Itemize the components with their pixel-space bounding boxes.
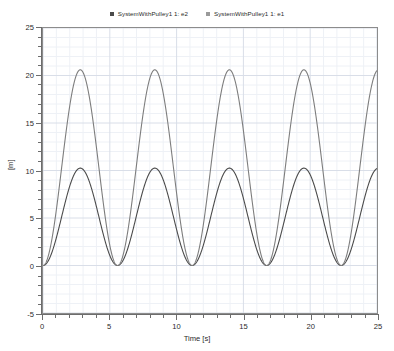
x-tick-major: [311, 315, 312, 320]
x-tick-minor: [123, 315, 124, 318]
series-line-1: [43, 168, 377, 265]
x-tick-minor: [96, 315, 97, 318]
y-tick-minor: [38, 104, 41, 105]
x-tick-major: [378, 315, 379, 320]
x-tick-label: 0: [27, 322, 57, 331]
y-tick-label: 0: [6, 262, 34, 271]
x-tick-minor: [270, 315, 271, 318]
x-tick-minor: [69, 315, 70, 318]
y-tick-major: [36, 218, 41, 219]
y-tick-major: [36, 314, 41, 315]
series-curves: [43, 28, 377, 313]
y-tick-minor: [38, 46, 41, 47]
x-tick-major: [176, 315, 177, 320]
y-tick-major: [36, 27, 41, 28]
x-tick-minor: [284, 315, 285, 318]
x-tick-minor: [338, 315, 339, 318]
y-tick-minor: [38, 180, 41, 181]
x-tick-minor: [136, 315, 137, 318]
x-tick-minor: [203, 315, 204, 318]
y-tick-minor: [38, 56, 41, 57]
y-tick-minor: [38, 151, 41, 152]
x-tick-label: 10: [161, 322, 191, 331]
y-tick-label: 15: [6, 118, 34, 127]
y-tick-minor: [38, 228, 41, 229]
x-tick-label: 5: [94, 322, 124, 331]
x-tick-minor: [150, 315, 151, 318]
y-tick-minor: [38, 37, 41, 38]
x-tick-label: 15: [229, 322, 259, 331]
x-tick-minor: [230, 315, 231, 318]
square-marker-icon: [206, 12, 210, 16]
x-tick-minor: [82, 315, 83, 318]
y-tick-minor: [38, 285, 41, 286]
y-tick-major: [36, 75, 41, 76]
y-tick-minor: [38, 142, 41, 143]
y-tick-major: [36, 171, 41, 172]
x-tick-minor: [297, 315, 298, 318]
x-axis-title: Time [s]: [0, 334, 394, 343]
x-tick-minor: [217, 315, 218, 318]
y-axis-line: [41, 27, 42, 315]
y-tick-minor: [38, 94, 41, 95]
y-tick-minor: [38, 247, 41, 248]
x-axis-line: [42, 314, 379, 315]
y-tick-minor: [38, 132, 41, 133]
x-tick-label: 25: [363, 322, 393, 331]
y-tick-major: [36, 123, 41, 124]
legend-label: SystemWithPulley1 1: e2: [118, 10, 188, 17]
legend-label: SystemWithPulley1 1: e1: [214, 10, 284, 17]
y-tick-minor: [38, 65, 41, 66]
y-tick-label: -5: [6, 310, 34, 319]
y-tick-minor: [38, 295, 41, 296]
legend-entry-2[interactable]: SystemWithPulley1 1: e1: [206, 10, 284, 17]
x-tick-minor: [324, 315, 325, 318]
x-tick-minor: [163, 315, 164, 318]
legend-entry-1[interactable]: SystemWithPulley1 1: e2: [110, 10, 188, 17]
y-tick-minor: [38, 304, 41, 305]
y-tick-minor: [38, 113, 41, 114]
y-tick-minor: [38, 276, 41, 277]
square-marker-icon: [110, 12, 114, 16]
y-tick-label: 20: [6, 70, 34, 79]
y-tick-minor: [38, 190, 41, 191]
x-tick-minor: [55, 315, 56, 318]
y-tick-label: 5: [6, 214, 34, 223]
x-tick-minor: [190, 315, 191, 318]
x-tick-minor: [365, 315, 366, 318]
y-tick-major: [36, 266, 41, 267]
plot-area: [42, 27, 378, 314]
x-tick-label: 20: [296, 322, 326, 331]
y-axis-title: [m]: [6, 159, 15, 170]
x-tick-major: [109, 315, 110, 320]
chart-legend: SystemWithPulley1 1: e2SystemWithPulley1…: [0, 10, 394, 17]
x-tick-minor: [257, 315, 258, 318]
x-tick-minor: [351, 315, 352, 318]
y-tick-minor: [38, 199, 41, 200]
y-tick-minor: [38, 257, 41, 258]
y-tick-minor: [38, 161, 41, 162]
x-tick-major: [42, 315, 43, 320]
y-tick-minor: [38, 237, 41, 238]
y-tick-label: 25: [6, 23, 34, 32]
y-tick-minor: [38, 209, 41, 210]
x-tick-major: [244, 315, 245, 320]
chart-container: SystemWithPulley1 1: e2SystemWithPulley1…: [0, 0, 394, 351]
y-tick-minor: [38, 84, 41, 85]
